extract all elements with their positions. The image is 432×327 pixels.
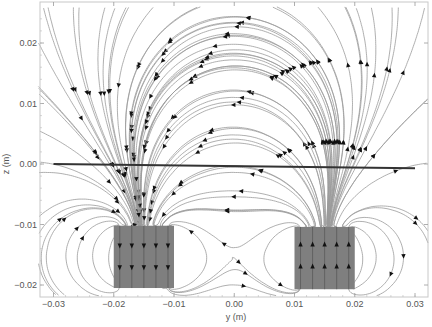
- arrow-head-icon: [401, 254, 405, 259]
- streamline: [169, 257, 299, 293]
- arrow-head-icon: [231, 195, 236, 199]
- streamline: [343, 208, 429, 243]
- reference-line: [54, 164, 416, 168]
- y-axis-label: z (m): [1, 154, 11, 175]
- y-tick-label: 0.01: [19, 99, 37, 109]
- arrow-head-icon: [316, 60, 320, 65]
- arrow-head-icon: [79, 115, 83, 120]
- arrow-head-icon: [384, 66, 388, 71]
- arrow-head-icon: [208, 51, 213, 55]
- arrow-head-icon: [167, 128, 172, 133]
- arrow-head-icon: [241, 283, 246, 287]
- streamline: [264, 226, 299, 290]
- streamline: [139, 68, 328, 228]
- streamline: [162, 210, 306, 227]
- arrow-head-icon: [234, 25, 239, 29]
- arrow-head-icon: [102, 91, 106, 96]
- x-tick-label: −0.01: [163, 299, 186, 309]
- streamline: [154, 172, 314, 227]
- arrow-head-icon: [145, 125, 149, 130]
- streamline: [169, 222, 299, 248]
- x-axis-label: y (m): [226, 312, 247, 322]
- streamline: [169, 225, 207, 290]
- arrow-head-icon: [372, 73, 376, 78]
- arrow-head-icon: [209, 128, 214, 132]
- streamline: [109, 238, 115, 278]
- y-tick-label: 0.02: [19, 38, 37, 48]
- arrow-head-icon: [341, 140, 345, 145]
- y-axis-ticks: −0.02−0.010.000.010.02: [14, 19, 428, 290]
- arrow-head-icon: [222, 242, 227, 246]
- arrow-head-icon: [212, 44, 217, 48]
- streamline: [140, 97, 326, 227]
- y-tick-label: −0.02: [14, 280, 37, 290]
- streamline: [349, 221, 394, 295]
- arrow-head-icon: [345, 147, 349, 152]
- arrow-head-icon: [239, 189, 244, 193]
- x-axis-ticks: −0.03−0.02−0.010.000.010.020.03: [42, 2, 424, 309]
- arrow-head-icon: [179, 180, 184, 184]
- x-tick-label: −0.03: [42, 299, 65, 309]
- streamline: [354, 234, 363, 283]
- arrow-head-icon: [237, 100, 242, 104]
- arrow-head-icon: [231, 103, 236, 107]
- streamplot-chart: −0.03−0.02−0.010.000.010.020.03 −0.02−0.…: [0, 0, 432, 327]
- y-tick-label: −0.01: [14, 220, 37, 230]
- arrow-head-icon: [189, 230, 194, 234]
- streamline: [77, 221, 119, 293]
- arrow-head-icon: [165, 135, 169, 140]
- x-tick-label: 0.03: [406, 299, 424, 309]
- x-tick-label: 0.01: [286, 299, 304, 309]
- streamlines: [38, 7, 428, 296]
- arrow-head-icon: [413, 215, 418, 220]
- magnets: [114, 226, 355, 290]
- x-tick-label: −0.02: [102, 299, 125, 309]
- streamline: [41, 208, 125, 295]
- streamline: [147, 127, 322, 228]
- streamline: [98, 8, 141, 226]
- streamline: [140, 70, 330, 227]
- streamline: [161, 285, 276, 296]
- x-tick-label: 0.02: [346, 299, 364, 309]
- y-tick-label: 0.00: [19, 159, 37, 169]
- arrow-head-icon: [239, 96, 244, 100]
- arrow-head-icon: [250, 172, 255, 176]
- arrow-head-icon: [115, 209, 120, 214]
- arrow-head-icon: [223, 34, 228, 38]
- streamline: [162, 209, 306, 228]
- arrow-head-icon: [365, 62, 369, 67]
- x-tick-label: 0.00: [225, 299, 243, 309]
- streamline: [136, 44, 332, 227]
- arrow-head-icon: [346, 63, 350, 68]
- arrow-head-icon: [163, 144, 167, 149]
- arrow-head-icon: [117, 83, 121, 88]
- streamline: [139, 90, 327, 227]
- arrow-head-icon: [278, 282, 283, 286]
- arrow-head-icon: [98, 91, 102, 96]
